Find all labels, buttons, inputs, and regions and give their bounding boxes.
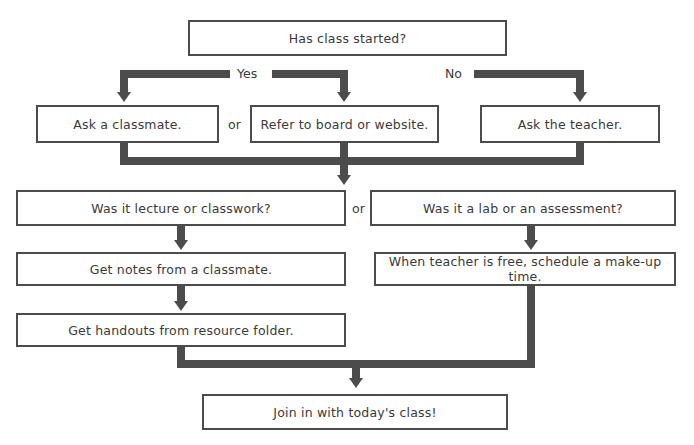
node-label: Get handouts from resource folder. (68, 323, 294, 338)
arrow-to-handouts (174, 301, 188, 311)
arrow-to-classmate (117, 92, 131, 102)
arrow-to-stage2 (337, 175, 351, 185)
connector-branch-bar-mid (272, 70, 348, 78)
node-ask-the-teacher: Ask the teacher. (480, 105, 660, 143)
node-label: Was it a lab or an assessment? (423, 201, 623, 216)
connector-down-from-makeup (527, 286, 535, 368)
node-label: Refer to board or website. (261, 117, 429, 132)
connector-merge-bar-row1 (120, 157, 584, 165)
node-label: Has class started? (289, 31, 407, 46)
connector-branch-bar-right (474, 70, 584, 78)
node-schedule-make-up-time: When teacher is free, schedule a make-up… (374, 252, 676, 286)
branch-label-yes: Yes (232, 68, 262, 81)
node-get-notes-from-classmate: Get notes from a classmate. (16, 252, 346, 286)
node-label: Ask a classmate. (73, 117, 182, 132)
or-label-row1: or (228, 119, 241, 132)
node-get-handouts-from-resource-folder: Get handouts from resource folder. (16, 313, 346, 347)
or-label-row2: or (352, 203, 365, 216)
arrow-to-makeup (524, 240, 538, 250)
branch-label-no: No (440, 68, 467, 81)
node-ask-a-classmate: Ask a classmate. (36, 105, 219, 143)
node-label: When teacher is free, schedule a make-up… (376, 254, 674, 284)
node-join-in-with-todays-class: Join in with today's class! (202, 394, 508, 430)
arrow-to-teacher (573, 92, 587, 102)
node-has-class-started: Has class started? (188, 20, 507, 56)
node-label: Ask the teacher. (518, 117, 623, 132)
node-label: Get notes from a classmate. (90, 262, 272, 277)
node-was-it-lab-or-assessment: Was it a lab or an assessment? (370, 190, 676, 226)
flowchart-canvas: Has class started? Yes No Ask a classmat… (0, 0, 694, 445)
node-label: Was it lecture or classwork? (91, 201, 271, 216)
node-was-it-lecture-or-classwork: Was it lecture or classwork? (16, 190, 346, 226)
arrow-to-board (337, 92, 351, 102)
node-label: Join in with today's class! (273, 405, 436, 420)
arrow-to-notes (174, 240, 188, 250)
node-refer-to-board: Refer to board or website. (250, 105, 439, 143)
connector-branch-bar-left (120, 70, 230, 78)
arrow-to-join (349, 378, 363, 388)
